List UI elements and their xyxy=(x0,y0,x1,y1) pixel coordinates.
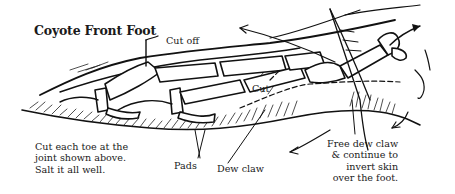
note-left-line: joint shown above. xyxy=(35,152,128,163)
note-left-line: Cut each toe at the xyxy=(35,141,128,152)
note-right-line: over the foot. xyxy=(327,172,398,183)
label-cut: Cut xyxy=(252,83,269,94)
note-left: Cut each toe at the joint shown above. S… xyxy=(35,141,128,175)
note-right-line: & continue to xyxy=(327,149,398,160)
diagram-title: Coyote Front Foot xyxy=(34,23,156,38)
note-right-line: invert skin xyxy=(327,161,398,172)
diagram-canvas: Coyote Front Foot Cut off Cut Pads Dew c… xyxy=(0,0,455,194)
label-dew-claw: Dew claw xyxy=(217,163,264,174)
note-left-line: Salt it all well. xyxy=(35,164,128,175)
note-right-line: Free dew claw xyxy=(327,138,398,149)
label-pads: Pads xyxy=(174,160,197,171)
note-right: Free dew claw & continue to invert skin … xyxy=(327,138,398,183)
label-cut-off: Cut off xyxy=(166,35,199,46)
